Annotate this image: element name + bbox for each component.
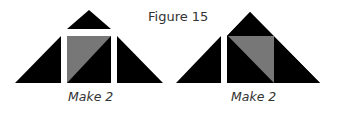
left-triangle: [176, 36, 221, 83]
caption-right: Make 2: [231, 89, 276, 104]
diagram-right: [176, 12, 320, 83]
diagram-left: [15, 10, 163, 83]
right-triangle: [117, 36, 163, 83]
top-triangle: [67, 10, 111, 29]
left-triangle: [15, 36, 61, 83]
figure-diagrams: [0, 0, 341, 113]
caption-left: Make 2: [68, 89, 113, 104]
